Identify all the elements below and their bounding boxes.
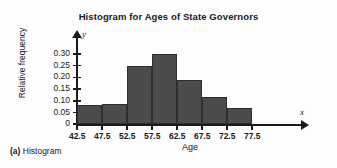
x-tick-mark	[176, 124, 178, 130]
histogram-bar	[102, 104, 127, 124]
x-axis-title: Age	[77, 142, 303, 152]
x-tick-mark	[226, 124, 228, 130]
x-tick-mark	[201, 124, 203, 130]
y-tick-label: 0.15	[26, 83, 70, 93]
y-tick-label: 0	[26, 118, 70, 128]
x-axis-arrow-icon	[301, 120, 309, 130]
histogram-bar	[177, 80, 202, 124]
y-tick-mark	[73, 77, 81, 79]
figure-caption-tag: (a)	[10, 146, 20, 156]
histogram-bar	[202, 97, 227, 124]
y-tick-label: 0.25	[26, 60, 70, 70]
x-tick-mark	[151, 124, 153, 130]
y-tick-label: 0.20	[26, 71, 70, 81]
y-axis-arrow-icon	[72, 30, 82, 38]
x-tick-mark	[101, 124, 103, 130]
histogram-bar	[77, 105, 102, 124]
histogram-figure: Histogram for Ages of State Governors y …	[0, 0, 337, 168]
x-tick-mark	[126, 124, 128, 130]
y-tick-mark	[73, 100, 81, 102]
histogram-bar	[227, 108, 252, 124]
y-tick-mark	[73, 88, 81, 90]
y-axis-symbol: y	[82, 29, 86, 39]
histogram-bar	[127, 66, 152, 125]
y-axis-title: Relative frequency	[17, 17, 27, 109]
figure-caption-text: Histogram	[23, 146, 62, 156]
y-tick-label: 0.30	[26, 48, 70, 58]
x-axis-symbol: x	[300, 107, 304, 117]
y-tick-mark	[73, 65, 81, 67]
y-tick-label: 0.10	[26, 95, 70, 105]
figure-caption: (a) Histogram	[10, 146, 62, 156]
y-tick-label: 0.05	[26, 107, 70, 117]
x-tick-mark	[76, 124, 78, 130]
y-tick-mark	[73, 53, 81, 55]
histogram-bar	[152, 54, 177, 124]
x-tick-mark	[251, 124, 253, 130]
plot-area: y x 00.050.100.150.200.250.30 42.547.552…	[0, 0, 337, 168]
x-tick-label: 77.5	[232, 131, 272, 141]
